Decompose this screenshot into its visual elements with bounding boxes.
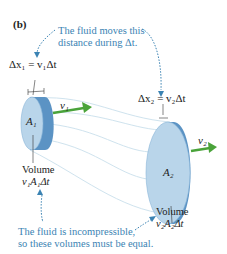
left-volume-label: Volume v₁A₁Δt [22,164,54,188]
left-volume-expr: v₁A₁Δt [22,176,54,188]
bottom-annotation-line1: The fluid is incompressible, [18,226,153,238]
top-annotation-line1: The fluid moves this [58,25,145,37]
left-volume-title: Volume [22,164,54,176]
velocity-v2-label: v₂ [198,134,207,146]
top-annotation-line2: distance during Δt. [58,37,145,49]
bottom-annotation: The fluid is incompressible, so these vo… [18,226,153,250]
right-volume-label: Volume v₂A₂Δt [156,206,188,230]
delta-x2-bracket [159,104,168,118]
right-volume-title: Volume [156,206,188,218]
delta-x1-bracket [28,80,44,95]
delta-x1-equation: Δx₁ = v₁Δt [9,58,57,70]
annotation-arrowheads [34,52,164,222]
velocity-v1-label: v₁ [60,99,69,111]
right-volume-expr: v₂A₂Δt [156,218,188,230]
velocity-arrow-v1 [53,102,92,113]
area-a2-label: A₂ [163,166,174,178]
delta-x2-equation: Δx₂ = v₂Δt [138,92,186,104]
bottom-annotation-line2: so these volumes must be equal. [18,238,153,250]
top-annotation: The fluid moves this distance during Δt. [58,25,145,49]
panel-label: (b) [13,18,26,30]
area-a1-label: A₁ [26,115,37,127]
